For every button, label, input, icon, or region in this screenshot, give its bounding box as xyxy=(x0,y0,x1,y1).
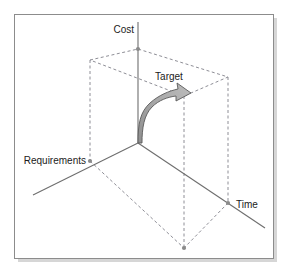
marker-cost-icon xyxy=(136,47,140,51)
marker-requirements-icon xyxy=(88,159,92,163)
target-arrow-label: Target xyxy=(155,71,183,82)
requirements-axis-label: Requirements xyxy=(24,155,86,166)
cost-axis-label: Cost xyxy=(113,24,134,35)
marker-time-icon xyxy=(226,201,230,205)
marker-bottom-front-icon xyxy=(182,246,186,250)
figure-root: Cost Target Requirements Time xyxy=(0,0,290,278)
time-axis-label: Time xyxy=(236,199,258,210)
project-constraints-diagram: Cost Target Requirements Time xyxy=(0,0,290,278)
